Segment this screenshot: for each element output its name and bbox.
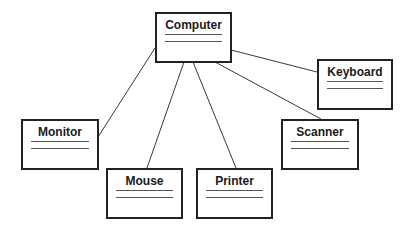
class-box-computer[interactable]: Computer [155,12,232,63]
operations-divider [116,197,173,198]
association-computer-mouse [147,62,184,168]
class-name-computer: Computer [157,18,230,32]
class-name-scanner: Scanner [283,125,357,139]
class-name-mouse: Mouse [108,174,181,188]
class-box-keyboard[interactable]: Keyboard [317,59,393,110]
attributes-divider [327,81,383,82]
association-computer-printer [193,62,236,168]
association-computer-keyboard [231,50,317,72]
attributes-divider [206,190,263,191]
class-name-monitor: Monitor [23,125,97,139]
class-name-printer: Printer [198,174,271,188]
class-box-mouse[interactable]: Mouse [106,168,183,219]
operations-divider [165,41,222,42]
attributes-divider [165,34,222,35]
class-box-scanner[interactable]: Scanner [281,119,359,170]
operations-divider [206,197,263,198]
operations-divider [31,148,89,149]
attributes-divider [31,141,89,142]
operations-divider [327,88,383,89]
attributes-divider [291,141,349,142]
class-box-printer[interactable]: Printer [196,168,273,219]
class-diagram: Computer Keyboard Monitor Scanner Mouse … [0,0,412,234]
class-name-keyboard: Keyboard [319,65,391,79]
attributes-divider [116,190,173,191]
association-computer-monitor [98,48,155,137]
class-box-monitor[interactable]: Monitor [21,119,99,170]
association-computer-scanner [215,62,321,119]
operations-divider [291,148,349,149]
